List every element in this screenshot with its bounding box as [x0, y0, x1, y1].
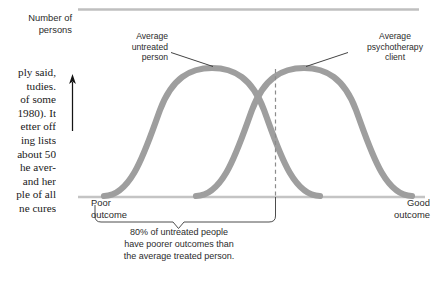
bracket-caption-line2: have poorer outcomes than — [86, 239, 272, 251]
body-text-line: ne cures — [0, 202, 56, 216]
x-axis-label-poor-outcome: Poor outcome — [91, 197, 151, 220]
annotation-average-psychotherapy-client: Average psychotherapy client — [352, 31, 438, 63]
bracket-caption: 80% of untreated people have poorer outc… — [86, 227, 272, 262]
leader-line-client — [306, 53, 348, 67]
annotation-untreated-line2: untreated — [96, 42, 168, 53]
x-axis-good-line2: outcome — [372, 209, 430, 221]
y-axis-title-line2: persons — [0, 24, 72, 36]
x-axis-poor-line1: Poor — [91, 197, 151, 209]
x-axis-poor-line2: outcome — [91, 209, 151, 221]
body-text-line: of some — [0, 93, 56, 107]
bracket-caption-line1: 80% of untreated people — [86, 227, 272, 239]
annotation-untreated-line1: Average — [96, 31, 168, 42]
body-text-line: he aver- — [0, 161, 56, 175]
y-axis-arrow-icon — [69, 74, 76, 131]
y-axis-title-line1: Number of — [0, 12, 72, 24]
x-axis-label-good-outcome: Good outcome — [372, 197, 430, 220]
body-text-line: ple of all — [0, 188, 56, 202]
annotation-client-line2: psychotherapy — [352, 42, 438, 53]
annotation-average-untreated-person: Average untreated person — [96, 31, 168, 63]
bracket-caption-line3: the average treated person. — [86, 251, 272, 263]
figure-container: Number of persons Average untreated pers… — [0, 0, 440, 281]
annotation-client-line3: client — [352, 52, 438, 63]
annotation-client-line1: Average — [352, 31, 438, 42]
x-axis-good-line1: Good — [372, 197, 430, 209]
body-text-line: ing lists — [0, 134, 56, 148]
body-text-line: about 50 — [0, 148, 56, 162]
body-text-line: and her — [0, 175, 56, 189]
page-body-text-fragment: ply said, tudies. of some 1980). It ette… — [0, 66, 56, 216]
y-axis-title: Number of persons — [0, 12, 72, 36]
curve-untreated-distribution — [104, 68, 320, 196]
leader-line-untreated — [171, 53, 213, 67]
body-text-line: etter off — [0, 120, 56, 134]
annotation-untreated-line3: person — [96, 52, 168, 63]
body-text-line: ply said, — [0, 66, 56, 80]
curve-treated-distribution — [196, 68, 412, 196]
body-text-line: tudies. — [0, 80, 56, 94]
body-text-line: 1980). It — [0, 107, 56, 121]
